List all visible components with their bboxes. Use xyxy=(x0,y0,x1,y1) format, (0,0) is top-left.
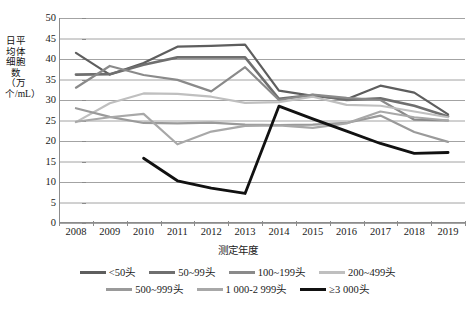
legend-item[interactable]: 100~199头 xyxy=(229,267,305,279)
x-tick-mark xyxy=(228,221,229,226)
x-tick-label: 2019 xyxy=(426,226,470,238)
y-axis-tick-labels: 05101520253035404550 xyxy=(26,18,56,223)
x-axis-tick-labels: 2008200920102011201220132014201520162017… xyxy=(59,226,465,244)
legend-label: 1 000-2 999头 xyxy=(226,284,287,296)
x-tick-mark xyxy=(93,221,94,226)
chart-legend: <50头50~99头100~199头200~499头 500~999头1 000… xyxy=(0,264,475,298)
y-tick-label: 50 xyxy=(30,13,56,23)
legend-row-2: 500~999头1 000-2 999头≥3 000头 xyxy=(0,281,475,298)
plot-area xyxy=(59,18,465,223)
series-lines xyxy=(59,18,465,223)
legend-label: 500~999头 xyxy=(135,284,182,296)
legend-item[interactable]: ≥3 000头 xyxy=(300,284,368,296)
x-tick-mark xyxy=(296,221,297,226)
legend-swatch xyxy=(319,271,345,274)
legend-swatch xyxy=(229,271,255,274)
legend-label: ≥3 000头 xyxy=(329,284,368,296)
x-tick-mark xyxy=(465,221,466,226)
x-tick-mark xyxy=(262,221,263,226)
y-tick-label: 40 xyxy=(30,54,56,64)
legend-label: 50~99头 xyxy=(178,267,215,279)
y-tick-label: 20 xyxy=(30,136,56,146)
x-tick-mark xyxy=(330,221,331,226)
legend-row-1: <50头50~99头100~199头200~499头 xyxy=(0,264,475,281)
y-tick-label: 10 xyxy=(30,177,56,187)
x-tick-mark xyxy=(127,221,128,226)
legend-item[interactable]: 1 000-2 999头 xyxy=(197,284,287,296)
x-tick-mark xyxy=(161,221,162,226)
legend-item[interactable]: 50~99头 xyxy=(149,267,215,279)
y-tick-label: 45 xyxy=(30,34,56,44)
y-axis-title: 日平均体细胞数（万个/mL） xyxy=(5,36,27,100)
legend-item[interactable]: 500~999头 xyxy=(106,284,182,296)
legend-label: 200~499头 xyxy=(348,267,395,279)
y-tick-label: 25 xyxy=(30,116,56,126)
x-tick-mark xyxy=(364,221,365,226)
x-axis-title: 测定年度 xyxy=(0,244,475,257)
legend-item[interactable]: 200~499头 xyxy=(319,267,395,279)
x-tick-mark xyxy=(59,221,60,226)
legend-swatch xyxy=(106,288,132,291)
legend-swatch xyxy=(149,271,175,274)
legend-swatch xyxy=(300,288,326,291)
y-tick-label: 35 xyxy=(30,75,56,85)
legend-swatch xyxy=(197,288,223,291)
y-tick-label: 15 xyxy=(30,157,56,167)
x-tick-mark xyxy=(431,221,432,226)
chart-figure: 日平均体细胞数（万个/mL） 05101520253035404550 2008… xyxy=(0,0,475,315)
x-tick-mark xyxy=(194,221,195,226)
x-tick-mark xyxy=(397,221,398,226)
legend-item[interactable]: <50头 xyxy=(80,267,135,279)
legend-label: <50头 xyxy=(109,267,135,279)
y-tick-label: 5 xyxy=(30,198,56,208)
y-tick-label: 0 xyxy=(30,218,56,228)
y-tick-label: 30 xyxy=(30,95,56,105)
legend-label: 100~199头 xyxy=(258,267,305,279)
legend-swatch xyxy=(80,271,106,274)
